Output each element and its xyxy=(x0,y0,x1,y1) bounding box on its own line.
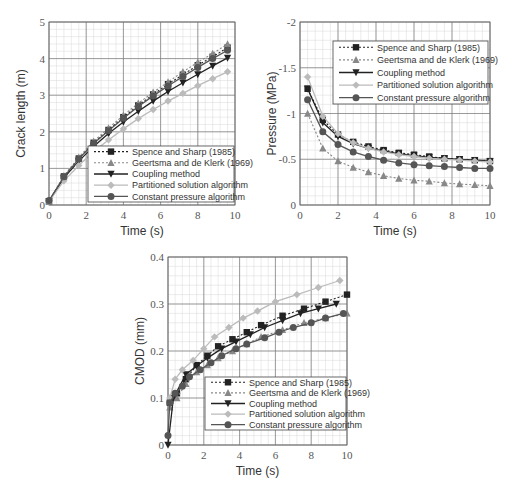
y-tick-label: 0.4 xyxy=(150,251,164,263)
figure-canvas: 0246810012345Time (s)Crack length (m)Spe… xyxy=(0,0,511,487)
data-point xyxy=(179,73,186,80)
legend-label: Partitioned solution algorithm xyxy=(132,180,248,190)
data-point xyxy=(194,64,201,71)
y-tick-label: -2 xyxy=(287,16,296,28)
legend-label: Partitioned solution algorithm xyxy=(377,80,493,90)
data-point xyxy=(218,352,225,359)
data-point xyxy=(395,175,402,182)
data-point xyxy=(319,144,326,151)
legend-label: Constant pressure algorithm xyxy=(249,420,362,430)
y-tick-label: 5 xyxy=(40,16,46,28)
x-tick-label: 0 xyxy=(165,449,171,461)
data-point xyxy=(304,73,311,80)
data-point xyxy=(293,291,300,298)
data-point xyxy=(209,55,216,62)
data-point xyxy=(486,182,493,189)
y-tick-label: 1 xyxy=(40,162,46,174)
data-point xyxy=(225,324,232,331)
data-point xyxy=(172,390,179,397)
data-point xyxy=(334,157,341,164)
data-point xyxy=(275,329,282,336)
data-point xyxy=(165,432,172,439)
legend-label: Constant pressure algorithm xyxy=(377,93,490,103)
legend-label: Geertsma and de Klerk (1969) xyxy=(377,55,498,65)
data-point xyxy=(224,40,231,47)
x-tick-label: 10 xyxy=(230,209,242,221)
y-tick-label: 0.2 xyxy=(150,345,164,357)
data-point xyxy=(441,163,448,170)
legend: Spence and Sharp (1985)Geertsma and de K… xyxy=(205,377,370,430)
data-point xyxy=(150,92,157,99)
legend-marker xyxy=(108,148,114,154)
x-tick-label: 8 xyxy=(449,209,455,221)
y-tick-label: -1.5 xyxy=(279,62,297,74)
legend-label: Constant pressure algorithm xyxy=(132,192,245,202)
data-point xyxy=(304,96,311,103)
x-tick-label: 4 xyxy=(373,209,379,221)
data-point xyxy=(380,172,387,179)
x-axis-label: Time (s) xyxy=(236,464,280,478)
x-tick-label: 0 xyxy=(297,209,303,221)
data-point xyxy=(344,291,350,297)
data-point xyxy=(290,324,297,331)
data-point xyxy=(60,173,67,180)
data-point xyxy=(395,159,402,166)
y-tick-label: 0 xyxy=(40,199,46,211)
legend-label: Spence and Sharp (1985) xyxy=(377,43,480,53)
legend-label: Spence and Sharp (1985) xyxy=(132,147,235,157)
data-point xyxy=(179,90,186,97)
data-point xyxy=(75,155,82,162)
data-point xyxy=(179,383,186,390)
data-point xyxy=(224,68,231,75)
x-tick-label: 2 xyxy=(335,209,341,221)
y-tick-label: 3 xyxy=(40,89,46,101)
data-point xyxy=(135,115,142,122)
y-tick-label: -1 xyxy=(287,108,296,120)
y-tick-label: 2 xyxy=(40,126,46,138)
legend-marker xyxy=(225,421,232,428)
data-point xyxy=(411,161,418,168)
data-point xyxy=(105,127,112,134)
y-tick-label: 4 xyxy=(40,53,46,65)
data-point xyxy=(365,168,372,175)
legend-label: Partitioned solution algorithm xyxy=(249,409,365,419)
data-point xyxy=(135,103,142,110)
legend: Spence and Sharp (1985)Geertsma and de K… xyxy=(88,146,253,202)
data-point xyxy=(197,366,204,373)
data-point xyxy=(164,97,171,104)
data-point xyxy=(297,310,304,317)
y-tick-label: 0.1 xyxy=(150,392,164,404)
data-point xyxy=(336,277,343,284)
data-point xyxy=(46,197,53,204)
data-point xyxy=(319,128,326,135)
y-axis-label: CMOD (mm) xyxy=(133,317,147,385)
x-tick-label: 10 xyxy=(485,209,497,221)
legend-label: Coupling method xyxy=(132,169,200,179)
data-point xyxy=(487,165,494,172)
legend: Spence and Sharp (1985)Geertsma and de K… xyxy=(333,41,498,104)
data-point xyxy=(365,153,372,160)
data-point xyxy=(166,399,173,406)
x-tick-label: 6 xyxy=(158,209,164,221)
x-axis-label: Time (s) xyxy=(373,224,417,238)
data-point xyxy=(426,162,433,169)
y-axis-label: Pressure (MPa) xyxy=(265,71,279,155)
y-tick-label: -0.5 xyxy=(279,153,297,165)
data-point xyxy=(380,157,387,164)
chart-pressure: 02468100-0.5-1-1.5-2Time (s)Pressure (MP… xyxy=(265,16,498,238)
data-point xyxy=(194,82,201,89)
legend-label: Spence and Sharp (1985) xyxy=(249,378,352,388)
data-point xyxy=(261,334,268,341)
legend-marker xyxy=(353,44,359,50)
x-tick-label: 4 xyxy=(237,449,243,461)
data-point xyxy=(179,80,186,87)
data-point xyxy=(340,310,347,317)
data-point xyxy=(233,345,240,352)
legend-marker xyxy=(353,94,360,101)
y-tick-label: 0 xyxy=(159,439,165,451)
data-point xyxy=(239,314,246,321)
legend-label: Geertsma and de Klerk (1969) xyxy=(132,158,253,168)
x-tick-label: 8 xyxy=(308,449,314,461)
data-point xyxy=(194,71,201,78)
legend-label: Coupling method xyxy=(377,68,445,78)
